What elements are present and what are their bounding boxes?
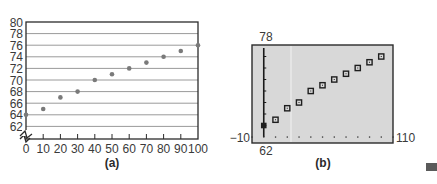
- data-point-center: [299, 102, 300, 103]
- x-tick-label: 0: [23, 142, 30, 156]
- data-point: [144, 60, 149, 65]
- data-point-center: [357, 68, 358, 69]
- x-axis-dot: [334, 136, 335, 137]
- x-tick-label: 80: [157, 142, 171, 156]
- x-tick-label: 90: [174, 142, 188, 156]
- data-point: [161, 55, 166, 60]
- ymin-label: 62: [259, 144, 273, 158]
- ymax-label: 78: [259, 30, 273, 44]
- data-point-center: [287, 108, 288, 109]
- data-point: [261, 123, 267, 129]
- x-tick-label: 50: [105, 142, 119, 156]
- x-tick-label: 40: [88, 142, 102, 156]
- x-axis-dot: [322, 136, 323, 137]
- data-point: [24, 113, 29, 118]
- x-axis-dot: [275, 136, 276, 137]
- x-axis-dot: [392, 136, 393, 137]
- x-axis-dot: [298, 136, 299, 137]
- xmin-label: −10: [230, 131, 251, 145]
- data-point-center: [381, 56, 382, 57]
- x-tick-label: 20: [54, 142, 68, 156]
- x-axis-dot: [369, 136, 370, 137]
- x-tick-label: 70: [140, 142, 154, 156]
- figure: 62646668707274767880 0102030405060708090…: [0, 0, 437, 184]
- caption-b: (b): [315, 156, 330, 170]
- x-axis-dot: [287, 136, 288, 137]
- data-point-center: [275, 119, 276, 120]
- data-point-center: [310, 91, 311, 92]
- data-point: [127, 66, 132, 71]
- x-axis-dot: [357, 136, 358, 137]
- data-point: [179, 49, 184, 54]
- data-point: [75, 89, 80, 94]
- data-point-center: [346, 73, 347, 74]
- gridlines: [26, 34, 198, 127]
- data-point-center: [369, 62, 370, 63]
- scatter-plot-b: 78 62 −10 110 (b): [230, 30, 416, 170]
- data-point: [93, 78, 98, 83]
- xmax-label: 110: [396, 131, 415, 145]
- x-axis-dot: [310, 136, 311, 137]
- data-point-center: [334, 79, 335, 80]
- data-point: [110, 72, 115, 77]
- y-tick-label: 80: [10, 16, 24, 30]
- data-point: [41, 107, 46, 112]
- x-axis-ticks: [43, 134, 181, 139]
- x-axis-dot: [381, 136, 382, 137]
- y-axis-tick-labels: 62646668707274767880: [10, 16, 24, 134]
- x-axis-dot: [251, 136, 252, 137]
- caption-a: (a): [105, 156, 120, 170]
- x-tick-label: 100: [188, 142, 208, 156]
- x-tick-label: 60: [123, 142, 137, 156]
- scatter-plot-a: 62646668707274767880 0102030405060708090…: [10, 16, 209, 171]
- x-axis-dot: [345, 136, 346, 137]
- x-tick-label: 30: [71, 142, 85, 156]
- data-point: [58, 95, 63, 100]
- data-point: [196, 43, 201, 48]
- end-of-section-square-icon: [426, 163, 437, 171]
- data-point-center: [322, 85, 323, 86]
- x-tick-label: 10: [37, 142, 51, 156]
- x-axis-tick-labels: 0102030405060708090100: [23, 142, 209, 156]
- x-axis-dot: [263, 136, 264, 137]
